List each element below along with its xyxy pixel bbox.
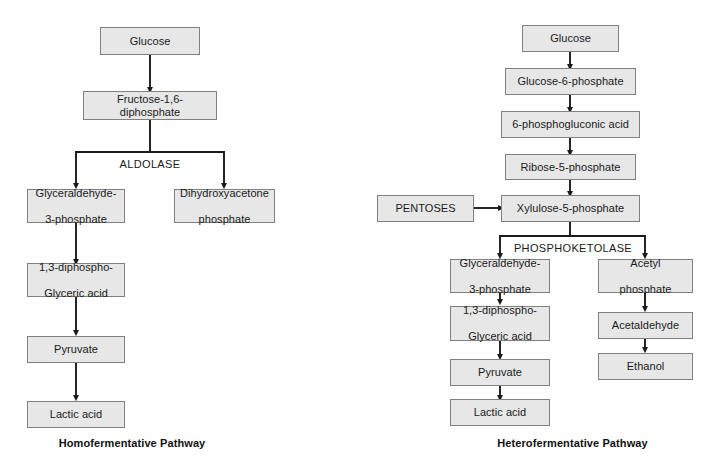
node-label-line1: Acetyl bbox=[602, 257, 689, 270]
node-glucose-heterofermentative[interactable]: Glucose bbox=[522, 25, 619, 52]
node-xylulose-5-phosphate[interactable]: Xylulose-5-phosphate bbox=[501, 195, 640, 222]
node-dihydroxyacetone-phosphate[interactable]: Dihydroxyacetone phosphate bbox=[174, 189, 275, 223]
enzyme-name: ALDOLASE bbox=[120, 158, 181, 170]
node-label-line1: Glyceraldehyde- bbox=[31, 187, 121, 200]
node-label-wrapper: 1,3-diphospho- Glyceric acid bbox=[454, 304, 546, 343]
node-glyceraldehyde-3-phosphate-homofermentative[interactable]: Glyceraldehyde- 3-phosphate bbox=[27, 189, 125, 223]
node-lactic-acid-homofermentative[interactable]: Lactic acid bbox=[27, 401, 125, 428]
node-label-line2: phosphate bbox=[602, 283, 689, 296]
node-pyruvate-heterofermentative[interactable]: Pyruvate bbox=[450, 359, 550, 386]
node-glucose-6-phosphate[interactable]: Glucose-6-phosphate bbox=[505, 68, 636, 95]
caption-text: Homofermentative Pathway bbox=[59, 437, 206, 449]
node-label-wrapper: Dihydroxyacetone phosphate bbox=[178, 187, 271, 226]
caption-homofermentative-pathway: Homofermentative Pathway bbox=[27, 437, 237, 449]
node-pentoses[interactable]: PENTOSES bbox=[377, 195, 474, 222]
node-fructose-1-6-diphosphate[interactable]: Fructose-1,6-diphosphate bbox=[83, 91, 217, 120]
enzyme-label-phosphoketolase: PHOSPHOKETOLASE bbox=[500, 242, 646, 254]
node-acetyl-phosphate[interactable]: Acetyl phosphate bbox=[598, 259, 693, 293]
node-label-line2: 3-phosphate bbox=[31, 213, 121, 226]
node-label: Pyruvate bbox=[31, 343, 121, 356]
node-label-wrapper: Glyceraldehyde- 3-phosphate bbox=[31, 187, 121, 226]
node-label: Glucose-6-phosphate bbox=[509, 75, 632, 88]
node-label: Xylulose-5-phosphate bbox=[505, 202, 636, 215]
node-label-line2: Glyceric acid bbox=[454, 330, 546, 343]
node-label: Lactic acid bbox=[31, 408, 121, 421]
node-label: Acetaldehyde bbox=[602, 319, 689, 332]
node-label: Pyruvate bbox=[454, 366, 546, 379]
node-label-line1: Dihydroxyacetone bbox=[178, 187, 271, 200]
caption-heterofermentative-pathway: Heterofermentative Pathway bbox=[465, 437, 680, 449]
heterofermentative-connectors bbox=[474, 52, 646, 398]
node-label: Ethanol bbox=[602, 360, 689, 373]
node-label-line1: 1,3-diphospho- bbox=[31, 261, 121, 274]
node-glucose-homofermentative[interactable]: Glucose bbox=[100, 27, 200, 55]
node-label: 6-phosphogluconic acid bbox=[505, 118, 636, 131]
node-ribose-5-phosphate[interactable]: Ribose-5-phosphate bbox=[505, 154, 636, 180]
node-label-line1: Glyceraldehyde- bbox=[454, 257, 546, 270]
node-label: Lactic acid bbox=[454, 406, 546, 419]
node-label-line2: 3-phosphate bbox=[454, 283, 546, 296]
node-label-wrapper: Glyceraldehyde- 3-phosphate bbox=[454, 257, 546, 296]
node-acetaldehyde[interactable]: Acetaldehyde bbox=[598, 312, 693, 339]
node-glyceraldehyde-3-phosphate-heterofermentative[interactable]: Glyceraldehyde- 3-phosphate bbox=[450, 259, 550, 293]
node-lactic-acid-heterofermentative[interactable]: Lactic acid bbox=[450, 399, 550, 426]
node-label: Glucose bbox=[104, 35, 196, 48]
node-label-line1: 1,3-diphospho- bbox=[454, 304, 546, 317]
pathway-diagram: Glucose Fructose-1,6-diphosphate ALDOLAS… bbox=[0, 0, 718, 460]
node-6-phosphogluconic-acid[interactable]: 6-phosphogluconic acid bbox=[501, 111, 640, 138]
node-label-wrapper: 1,3-diphospho- Glyceric acid bbox=[31, 261, 121, 300]
caption-text: Heterofermentative Pathway bbox=[497, 437, 648, 449]
node-label-line2: phosphate bbox=[178, 213, 271, 226]
node-ethanol[interactable]: Ethanol bbox=[598, 353, 693, 380]
node-pyruvate-homofermentative[interactable]: Pyruvate bbox=[27, 336, 125, 363]
node-label: Ribose-5-phosphate bbox=[509, 161, 632, 174]
node-label-line2: Glyceric acid bbox=[31, 287, 121, 300]
enzyme-label-aldolase: ALDOLASE bbox=[76, 158, 224, 170]
enzyme-name: PHOSPHOKETOLASE bbox=[514, 242, 632, 254]
node-label: Glucose bbox=[526, 32, 615, 45]
node-label: PENTOSES bbox=[381, 202, 470, 215]
node-1-3-diphosphoglyceric-acid-heterofermentative[interactable]: 1,3-diphospho- Glyceric acid bbox=[450, 306, 550, 341]
node-label-wrapper: Acetyl phosphate bbox=[602, 257, 689, 296]
node-label: Fructose-1,6-diphosphate bbox=[87, 93, 213, 119]
node-1-3-diphosphoglyceric-acid-homofermentative[interactable]: 1,3-diphospho- Glyceric acid bbox=[27, 263, 125, 297]
